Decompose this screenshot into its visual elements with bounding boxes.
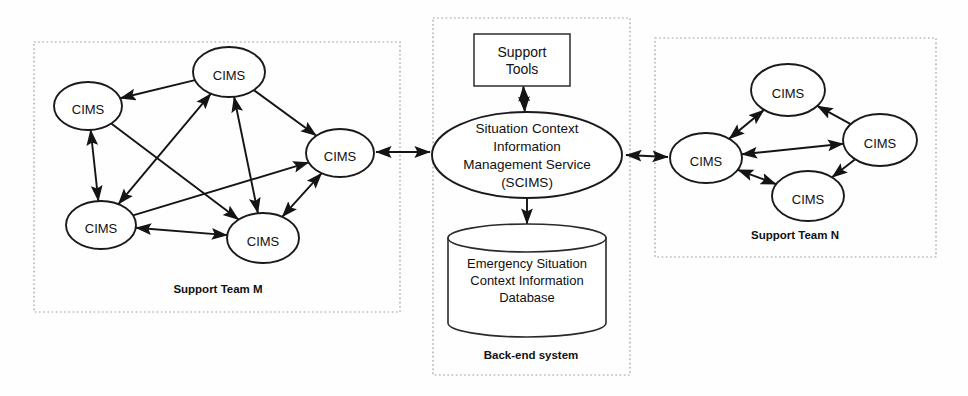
edge-n3-n4 <box>832 159 855 177</box>
scims-label-line-3: (SCIMS) <box>501 175 553 190</box>
edge-m1-m4 <box>91 130 99 201</box>
edge-m3-m5 <box>282 173 322 217</box>
scims-label-line-1: Information <box>493 139 561 154</box>
cims-node-label-m3: CIMS <box>324 149 357 164</box>
edge-tools-scims <box>523 86 524 112</box>
group-label-support-team-m: Support Team M <box>173 283 262 295</box>
group-label-support-team-n: Support Team N <box>751 229 839 241</box>
group-label-back-end-system: Back-end system <box>484 349 579 361</box>
edge-n3-n2 <box>817 106 850 124</box>
database-label-line-1: Context Information <box>470 273 583 288</box>
edge-n1-n2 <box>729 110 764 139</box>
database-label-line-2: Database <box>499 290 555 305</box>
cims-node-label-m5: CIMS <box>247 234 280 249</box>
architecture-diagram: CIMSCIMSCIMSCIMSCIMSSupportToolsSituatio… <box>0 0 968 396</box>
scims-label-line-2: Management Service <box>463 157 591 172</box>
database-cylinder-top[interactable] <box>448 224 606 252</box>
cims-node-label-m2: CIMS <box>213 68 246 83</box>
scims-label-line-0: Situation Context <box>476 121 579 136</box>
diagram-canvas: CIMSCIMSCIMSCIMSCIMSSupportToolsSituatio… <box>0 0 968 396</box>
cims-node-label-n1: CIMS <box>690 154 723 169</box>
edge-m2-m5 <box>234 97 258 213</box>
inter-group-edge-scims-n1 <box>626 155 668 157</box>
edge-m2-m3 <box>254 90 317 136</box>
cims-node-label-n2: CIMS <box>772 86 805 101</box>
cims-node-label-m1: CIMS <box>72 102 105 117</box>
edge-n1-n3 <box>742 144 844 155</box>
cims-node-label-m4: CIMS <box>85 221 118 236</box>
support-tools-label-line-0: Support <box>497 44 546 60</box>
edge-m2-m1 <box>120 80 195 98</box>
database-cylinder-body <box>448 238 606 337</box>
database-label-line-0: Emergency Situation <box>467 256 587 271</box>
support-tools-label-line-1: Tools <box>506 61 539 77</box>
cims-node-label-n4: CIMS <box>792 192 825 207</box>
edge-m4-m5 <box>136 228 227 235</box>
edge-n1-n4 <box>738 170 777 184</box>
cims-node-label-n3: CIMS <box>864 136 897 151</box>
